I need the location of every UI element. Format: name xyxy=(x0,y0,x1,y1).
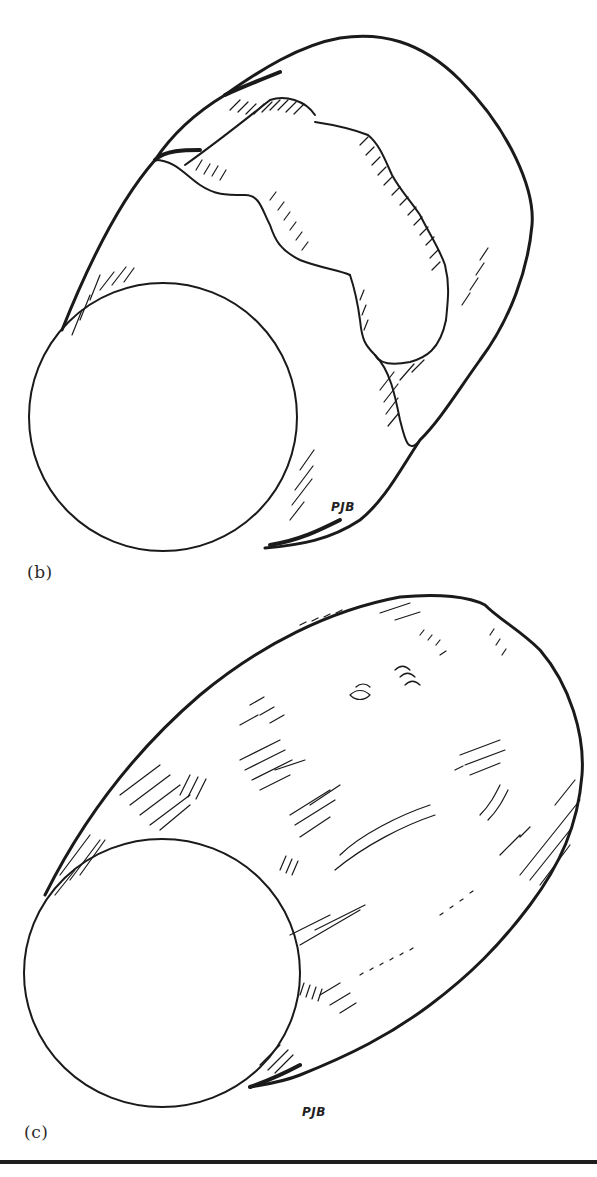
cylinder-drawing-c xyxy=(0,575,597,1135)
horizontal-rule xyxy=(0,1160,597,1164)
artist-signature-b: PJB xyxy=(331,500,355,514)
figure-panel-c: PJB xyxy=(0,575,597,1135)
panel-label-c: (c) xyxy=(24,1122,48,1142)
artist-signature-c: PJB xyxy=(302,1105,326,1119)
figure-panel-b: PJB xyxy=(0,0,597,570)
cylinder-drawing-b xyxy=(0,0,597,570)
